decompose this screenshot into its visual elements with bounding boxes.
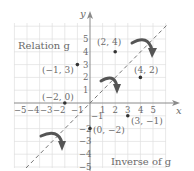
svg-text:(4, 2): (4, 2) <box>134 65 158 75</box>
point-2-4 <box>113 50 117 54</box>
svg-text:−5: −5 <box>79 162 92 171</box>
svg-text:−5: −5 <box>14 105 27 115</box>
svg-text:4: 4 <box>138 105 143 115</box>
svg-text:5: 5 <box>83 34 88 44</box>
axes <box>14 11 180 171</box>
svg-text:3: 3 <box>125 105 130 115</box>
y-axis-label: y <box>79 8 86 19</box>
curved-arrow-icon <box>41 133 66 151</box>
point-neg1-3 <box>76 63 80 67</box>
point-4-2 <box>139 76 143 80</box>
curved-arrow-icon <box>101 78 121 94</box>
svg-text:−4: −4 <box>27 105 40 115</box>
inverse-title: Inverse of g <box>111 156 172 167</box>
svg-text:1: 1 <box>83 85 88 95</box>
svg-text:−1: −1 <box>91 111 104 121</box>
svg-text:(3, −1): (3, −1) <box>131 116 163 126</box>
relation-title: Relation g <box>18 40 70 51</box>
svg-text:−4: −4 <box>79 149 92 159</box>
svg-text:4: 4 <box>83 47 88 57</box>
svg-text:5: 5 <box>151 105 156 115</box>
svg-text:3: 3 <box>83 60 88 70</box>
svg-text:2: 2 <box>113 105 118 115</box>
svg-text:(−2, 0): (−2, 0) <box>42 92 74 102</box>
point-0-neg2 <box>88 127 92 131</box>
point-3-neg1 <box>126 114 130 118</box>
svg-text:−3: −3 <box>40 105 53 115</box>
inverse-points: (4, 2) (3, −1) (0, −2) <box>88 65 163 135</box>
svg-text:(0, −2): (0, −2) <box>93 125 125 135</box>
svg-text:(2, 4): (2, 4) <box>97 37 121 47</box>
svg-text:2: 2 <box>83 72 88 82</box>
relation-inverse-diagram: y x −5 −4 −3 −2 −1 1 2 3 4 5 5 4 3 2 1 −… <box>0 0 194 171</box>
svg-text:−1: −1 <box>71 105 84 115</box>
x-tick-labels: −5 −4 −3 −2 −1 1 2 3 4 5 <box>14 105 156 115</box>
svg-text:−3: −3 <box>79 136 92 146</box>
x-axis-label: x <box>176 105 182 116</box>
svg-text:−2: −2 <box>53 105 66 115</box>
svg-text:(−1, 3): (−1, 3) <box>42 65 74 75</box>
